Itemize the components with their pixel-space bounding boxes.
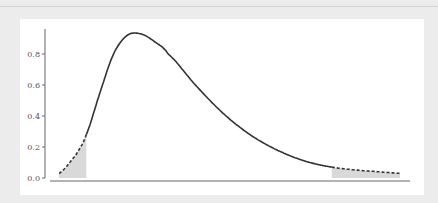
y-tick-label: 0.2 bbox=[27, 143, 40, 152]
y-tick-label: 0.4 bbox=[27, 112, 40, 121]
y-tick-label: 0.0 bbox=[27, 174, 40, 183]
chart-frame: 0.00.20.40.60.8 bbox=[0, 0, 438, 203]
density-curve-solid bbox=[86, 33, 331, 167]
y-tick-label: 0.8 bbox=[27, 50, 40, 59]
density-chart: 0.00.20.40.60.8 bbox=[0, 0, 438, 203]
y-tick-label: 0.6 bbox=[27, 81, 40, 90]
left-tail-shaded-area bbox=[59, 135, 86, 178]
